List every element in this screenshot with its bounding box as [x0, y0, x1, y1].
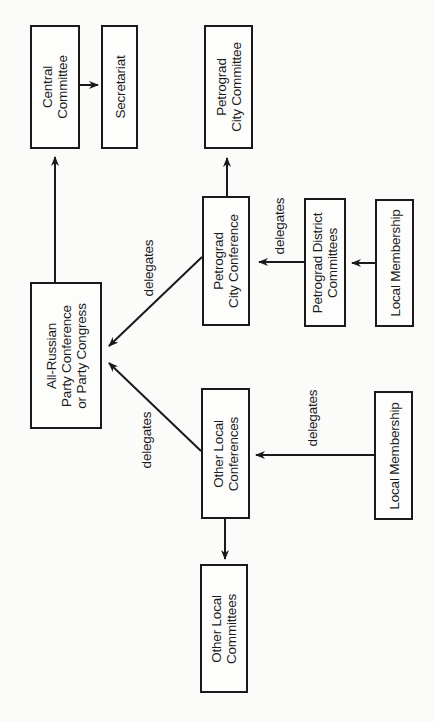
node-all-russian-party-conference: All-Russian Party Conference or Party Co…: [30, 282, 102, 429]
node-petrograd-city-committee: Petrograd City Committee: [204, 25, 253, 149]
edge-label-district-to-petrograd: delegates: [272, 198, 287, 255]
node-label: Other Local Committees: [209, 593, 239, 663]
node-label: Petrograd City Committee: [214, 42, 244, 131]
edge-label-petrograd-to-all-russian: delegates: [141, 240, 156, 297]
node-other-local-committees: Other Local Committees: [200, 564, 248, 693]
node-label: Local Membership: [386, 402, 401, 509]
edge-label-local-to-other-conferences: delegates: [305, 390, 320, 447]
node-label: Local Membership: [387, 209, 402, 316]
node-label: All-Russian Party Conference or Party Co…: [44, 303, 89, 408]
node-petrograd-city-conference: Petrograd City Conference: [202, 196, 250, 326]
arrow-other-conferences-to-all-russian: [109, 363, 201, 451]
arrow-petrograd-conference-to-all-russian: [109, 257, 202, 346]
edge-label-other-to-all-russian: delegates: [139, 412, 154, 469]
node-label: Secretariat: [112, 55, 127, 118]
node-secretariat: Secretariat: [101, 25, 138, 149]
node-petrograd-district-committees: Petrograd District Committees: [304, 198, 346, 327]
node-label: Petrograd District Committees: [310, 212, 340, 313]
node-label: Petrograd City Conference: [211, 214, 241, 308]
node-label: Other Local Conferences: [211, 416, 241, 490]
node-central-committee: Central Committee: [30, 25, 80, 149]
node-other-local-conferences: Other Local Conferences: [201, 388, 250, 519]
node-local-membership-petrograd: Local Membership: [375, 199, 414, 327]
node-label: Central Committee: [40, 55, 70, 118]
node-local-membership-other: Local Membership: [374, 391, 413, 520]
